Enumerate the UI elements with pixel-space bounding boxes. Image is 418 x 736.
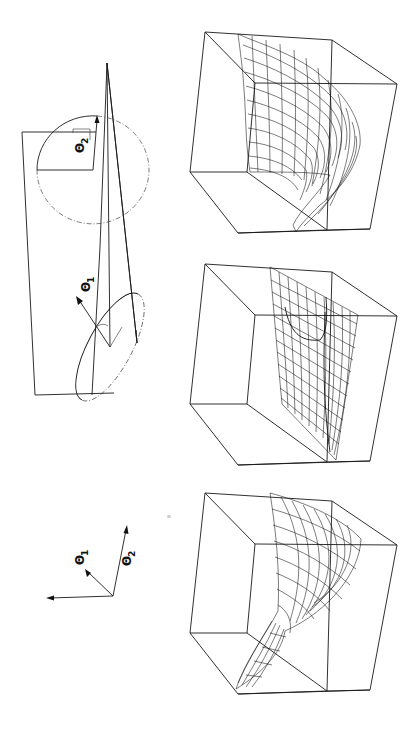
theta1-label: Θ 1 (79, 277, 96, 292)
bounding-cube-middle (190, 264, 397, 465)
axis-theta1-arrowhead-icon (85, 569, 91, 577)
theta2-subscript: 2 (80, 138, 90, 144)
axis-theta2-arrowhead-icon (124, 525, 129, 534)
wedge-right-edge (107, 63, 137, 343)
axes-glyph: Θ 1 Θ 2 (46, 525, 137, 601)
theta1-guide (110, 327, 122, 347)
axis-horizontal (50, 596, 113, 598)
theta1-ellipse-solid (62, 284, 138, 400)
print-smudge (167, 515, 171, 518)
theta1-arrow (79, 300, 110, 347)
plane-rectangle (22, 132, 114, 395)
surface-bottom (190, 493, 397, 694)
theta1-ellipse-dashed (82, 294, 158, 410)
geometry-panel: Θ 2 Θ 1 (22, 63, 158, 410)
theta1-arrowhead-icon (76, 296, 83, 305)
wireframe-mesh-bottom (236, 493, 361, 689)
axis-theta1-label: Θ 1 (73, 550, 90, 565)
axis-theta2-subscript: 2 (127, 551, 137, 557)
axis-theta1 (88, 572, 113, 596)
figure-canvas: Θ 2 Θ 1 Θ 1 Θ 2 (0, 0, 418, 736)
theta2-arrow (93, 120, 97, 170)
wedge-left-edge (107, 63, 110, 347)
axis-theta1-subscript: 1 (80, 550, 90, 556)
surface-top (190, 32, 397, 233)
axis-horizontal-arrowhead-icon (46, 596, 54, 601)
axis-theta2-label: Θ 2 (120, 551, 137, 566)
wireframe-mesh-top (238, 34, 360, 232)
wireframe-mesh-middle (270, 267, 358, 460)
theta1-subscript: 1 (86, 277, 96, 283)
surface-middle (190, 264, 397, 465)
bounding-cube-bottom (190, 493, 397, 694)
bounding-cube-top (190, 32, 397, 233)
wedge-triangle (92, 63, 137, 395)
theta2-label: Θ 2 (73, 138, 90, 153)
